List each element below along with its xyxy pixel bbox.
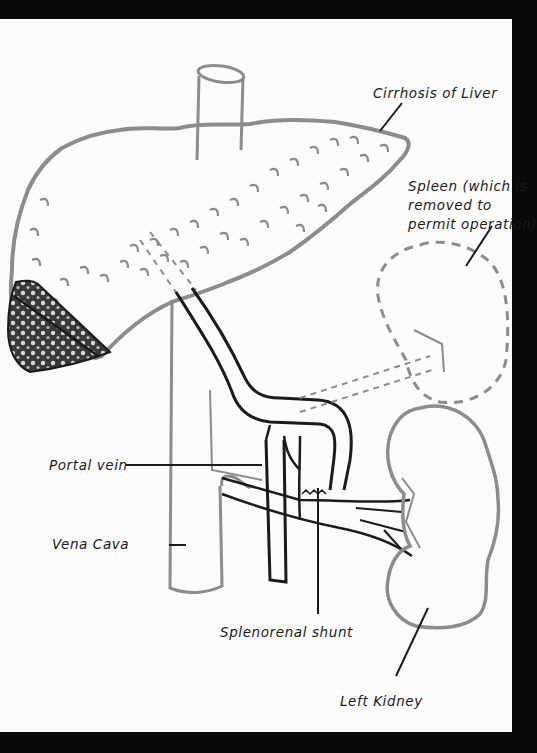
spleen-outline [300,242,508,412]
label-spleen-3: permit operation) [408,216,537,233]
portal-vein [176,288,351,582]
label-spleen-1: Spleen (which is [408,178,528,195]
vena-cava-upper [197,63,245,160]
label-shunt: Splenorenal shunt [220,624,353,641]
liver-cut-section [8,281,110,372]
label-vena-cava: Vena Cava [52,536,129,553]
vena-cava-lower [170,300,262,592]
label-kidney: Left Kidney [340,693,423,710]
leader-cirrhosis [380,103,402,131]
label-cirrhosis: Cirrhosis of Liver [373,85,497,102]
label-spleen-2: removed to [408,197,492,214]
label-portal-vein: Portal vein [49,457,128,474]
left-kidney [387,406,498,628]
